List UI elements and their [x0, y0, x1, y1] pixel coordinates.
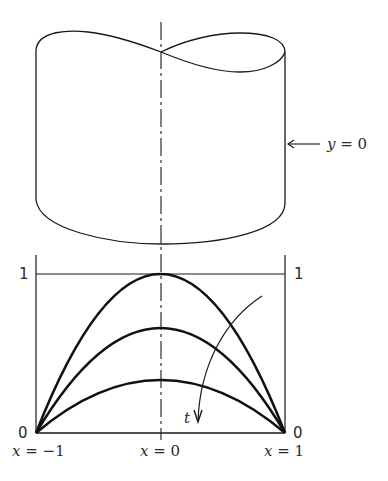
boundary-label: y = 0: [326, 135, 367, 153]
profile-plot: t 1 1 0 0 x = −1 x = 0 x = 1: [12, 255, 304, 460]
y-tick-left-bottom: 0: [18, 424, 28, 442]
y-tick-right-bottom: 0: [293, 424, 303, 442]
cylinder-top-right-lower-edge: [161, 52, 285, 72]
y-tick-left-top: 1: [19, 265, 29, 283]
x-label-center: x = 0: [140, 442, 180, 460]
diagram-canvas: y = 0 t 1 1 0 0 x = −1 x = 0 x = 1: [0, 0, 388, 481]
y-tick-right-top: 1: [294, 265, 304, 283]
cylinder-top-left-edge: [36, 31, 161, 52]
x-label-left: x = −1: [12, 442, 65, 460]
cylinder-top-right-upper-edge: [161, 33, 285, 52]
boundary-indicator: y = 0: [288, 135, 367, 153]
time-label: t: [184, 409, 191, 427]
x-label-right: x = 1: [264, 442, 304, 460]
